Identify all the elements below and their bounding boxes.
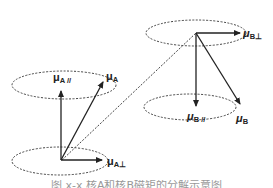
- lower-left-ellipse: [12, 147, 108, 175]
- label-mu-a-perp: μA⊥: [107, 156, 126, 169]
- label-mu-a-parallel: μA //: [53, 72, 71, 85]
- moment-diagram: [0, 0, 273, 188]
- figure-caption: 图 x-x 核A和核B磁矩的分解示意图: [0, 180, 273, 188]
- connector-dashed-line: [62, 33, 196, 160]
- label-mu-b: μB: [236, 113, 248, 126]
- mu-b-arrow: [196, 33, 240, 104]
- label-mu-b-parallel: μB //: [187, 111, 205, 124]
- label-mu-b-perp: μB⊥: [243, 28, 262, 41]
- label-mu-a: μA: [106, 71, 118, 84]
